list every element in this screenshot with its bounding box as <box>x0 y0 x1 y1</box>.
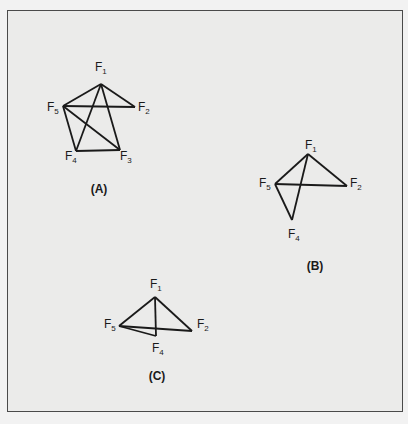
node-label-f4: F4 <box>152 341 164 357</box>
graph-b: F1F2F4F5(B) <box>259 138 362 273</box>
graph-a: F1F2F3F4F5(A) <box>47 60 150 196</box>
graph-caption-c: (C) <box>149 369 166 383</box>
node-subscript: 2 <box>145 107 150 116</box>
node-subscript: 1 <box>312 145 317 154</box>
node-label-f5: F5 <box>259 176 271 192</box>
edge-f1-f5 <box>63 84 101 106</box>
edge-f5-f2 <box>275 184 347 186</box>
graph-diagram: F1F2F3F4F5(A)F1F2F4F5(B)F1F2F4F5(C) <box>0 0 408 424</box>
node-subscript: 1 <box>157 284 162 293</box>
edge-f1-f4 <box>155 297 156 336</box>
node-subscript: 1 <box>102 67 107 76</box>
edge-f1-f4 <box>76 84 101 151</box>
graph-c: F1F2F4F5(C) <box>104 277 209 383</box>
node-subscript: 2 <box>357 183 362 192</box>
node-subscript: 4 <box>295 234 300 243</box>
node-label-f4: F4 <box>288 227 300 243</box>
node-label-f2: F2 <box>350 176 362 192</box>
node-label-f1: F1 <box>95 60 107 76</box>
node-subscript: 5 <box>54 107 59 116</box>
node-label-f2: F2 <box>197 317 209 333</box>
edge-f5-f2 <box>63 106 135 107</box>
node-label-f1: F1 <box>150 277 162 293</box>
node-label-f4: F4 <box>65 149 77 165</box>
node-subscript: 5 <box>266 183 271 192</box>
node-label-f1: F1 <box>305 138 317 154</box>
edge-f1-f2 <box>308 154 347 186</box>
node-subscript: 5 <box>111 324 116 333</box>
edge-f4-f3 <box>76 150 120 151</box>
node-subscript: 4 <box>72 156 77 165</box>
node-label-f2: F2 <box>138 100 150 116</box>
node-subscript: 2 <box>204 324 209 333</box>
edge-f1-f2 <box>155 297 192 331</box>
node-subscript: 4 <box>159 348 164 357</box>
node-subscript: 3 <box>127 156 132 165</box>
edge-f5-f4 <box>63 106 76 151</box>
edge-f1-f5 <box>275 154 308 184</box>
graph-caption-a: (A) <box>91 182 108 196</box>
edge-f5-f3 <box>63 106 120 150</box>
edge-f1-f5 <box>119 297 155 326</box>
graph-caption-b: (B) <box>307 259 324 273</box>
node-label-f5: F5 <box>47 100 59 116</box>
edge-f1-f4 <box>292 154 308 220</box>
node-label-f5: F5 <box>104 317 116 333</box>
edge-f5-f4 <box>275 184 292 220</box>
node-label-f3: F3 <box>120 149 132 165</box>
